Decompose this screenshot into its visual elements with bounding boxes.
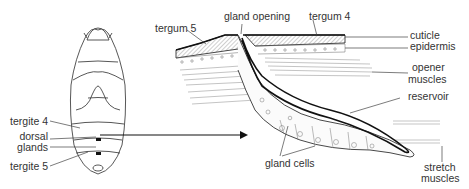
leader-lines-left [50, 121, 96, 166]
cross-section [176, 35, 440, 157]
label-reservoir: reservoir [408, 91, 449, 102]
arrow-head-icon [240, 131, 248, 139]
dorsal-gland-mark [96, 138, 101, 141]
label-tergum-4: tergum 4 [309, 11, 350, 22]
label-stretch-muscles: muscles [421, 173, 460, 184]
dorsal-gland-mark [96, 152, 101, 155]
label-gland-cells: gland cells [265, 158, 315, 169]
label-tergite-4: tergite 4 [2, 116, 48, 127]
label-epidermis: epidermis [410, 41, 456, 52]
label-tergum-5: tergum 5 [155, 23, 196, 34]
label-opener: opener [412, 62, 445, 73]
diagram-canvas [0, 0, 469, 189]
label-gland-opening: gland opening [224, 11, 290, 22]
label-glands: glands [2, 142, 48, 153]
label-tergite-5: tergite 5 [2, 161, 48, 172]
label-opener-muscles: muscles [408, 74, 447, 85]
